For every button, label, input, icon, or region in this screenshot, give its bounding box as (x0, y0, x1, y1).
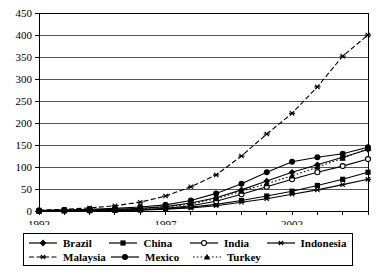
legend-item-brazil[interactable]: Brazil (28, 237, 108, 249)
plot-area: 050100150200250300350400450 199219972002 (0, 0, 376, 225)
legend-item-turkey[interactable]: Turkey (192, 251, 270, 263)
legend-key-indonesia (266, 237, 296, 249)
y-tick-label: 450 (16, 7, 33, 19)
asterisk-icon (266, 237, 296, 249)
y-tick-label: 0 (27, 205, 33, 217)
legend-label: Brazil (63, 237, 92, 249)
legend-key-malaysia (28, 251, 58, 263)
diamond-icon (28, 237, 58, 249)
chart-figure: 050100150200250300350400450 199219972002… (0, 0, 376, 272)
x-tick-label: 2002 (281, 218, 303, 225)
legend-key-india (189, 237, 219, 249)
legend-item-china[interactable]: China (108, 237, 188, 249)
legend-label: Indonesia (301, 237, 347, 249)
triangle-icon (192, 251, 222, 263)
y-tick-label: 350 (16, 51, 33, 63)
x-tick-label: 1992 (28, 218, 50, 225)
square-icon (108, 237, 138, 249)
x-axis-labels: 199219972002 (28, 218, 303, 225)
legend-label: Turkey (227, 251, 261, 263)
y-tick-label: 50 (21, 183, 33, 195)
legend-row-2: MalaysiaMexicoTurkey (28, 250, 348, 264)
filled-circle-icon (110, 251, 140, 263)
legend-key-turkey (192, 251, 222, 263)
legend-row-1: BrazilChinaIndiaIndonesia (28, 236, 348, 250)
legend-item-mexico[interactable]: Mexico (110, 251, 192, 263)
asterisk-icon (28, 251, 58, 263)
chart-legend: BrazilChinaIndiaIndonesia MalaysiaMexico… (23, 233, 353, 266)
legend-key-brazil (28, 237, 58, 249)
open-circle-icon (189, 237, 219, 249)
y-tick-label: 100 (16, 161, 33, 173)
legend-item-india[interactable]: India (189, 237, 266, 249)
legend-label: India (224, 237, 249, 249)
legend-item-indonesia[interactable]: Indonesia (266, 237, 348, 249)
legend-key-china (108, 237, 138, 249)
y-axis-labels: 050100150200250300350400450 (16, 7, 33, 217)
y-tick-label: 400 (16, 29, 33, 41)
legend-item-malaysia[interactable]: Malaysia (28, 251, 110, 263)
legend-label: Malaysia (63, 251, 106, 263)
legend-label: Mexico (145, 251, 179, 263)
x-tick-label: 1997 (155, 218, 178, 225)
legend-key-mexico (110, 251, 140, 263)
line-chart-svg: 050100150200250300350400450 199219972002 (0, 0, 376, 225)
legend-label: China (143, 237, 172, 249)
y-axis-ticks (35, 13, 39, 211)
y-tick-label: 150 (16, 139, 33, 151)
y-tick-label: 250 (16, 95, 33, 107)
y-tick-label: 200 (16, 117, 33, 129)
y-tick-label: 300 (16, 73, 33, 85)
gridlines (39, 13, 368, 189)
